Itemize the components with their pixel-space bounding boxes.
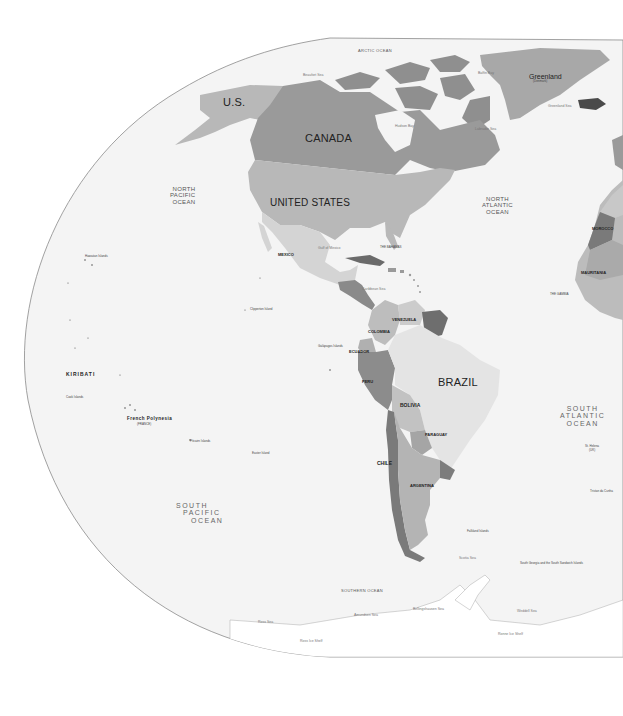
north-atlantic-line2: ATLANTIC [482, 202, 513, 208]
north-atlantic-line3: OCEAN [482, 209, 513, 215]
north-pacific-line3: OCEAN [170, 199, 195, 205]
label-caribbean-sea: Caribbean Sea [362, 288, 385, 292]
north-pacific-line2: PACIFIC [170, 192, 195, 198]
label-north-atlantic: NORTH ATLANTIC OCEAN [482, 196, 513, 215]
label-arctic-ocean: ARCTIC OCEAN [358, 49, 392, 53]
label-baffin-bay: Baffin Bay [478, 72, 494, 76]
label-brazil: BRAZIL [438, 377, 478, 389]
south-pacific-line1: SOUTH [176, 502, 223, 509]
label-scotia-sea: Scotia Sea [459, 557, 476, 561]
label-mexico: MEXICO [278, 253, 294, 257]
label-us-alaska: U.S. [223, 97, 245, 109]
label-st-helena-sub: (UK) [589, 449, 595, 452]
label-ross-ice-shelf: Ross Ice Shelf [300, 640, 323, 644]
label-bellingshausen-sea: Bellingshausen Sea [413, 608, 444, 612]
south-pacific-line2: PACIFIC [176, 509, 223, 516]
label-united-states: UNITED STATES [270, 198, 350, 209]
label-venezuela: VENEZUELA [392, 318, 416, 322]
label-greenland-sub: (Denmark) [533, 80, 547, 83]
label-french-polynesia-sub: (FRANCE) [137, 423, 151, 426]
label-south-atlantic: SOUTH ATLANTIC OCEAN [560, 405, 605, 427]
label-south-georgia: South Georgia and the South Sandwich Isl… [520, 562, 583, 565]
label-weddell-sea: Weddell Sea [517, 610, 537, 614]
label-clipperton: Clipperton Island [250, 308, 273, 311]
south-atlantic-line1: SOUTH [560, 405, 605, 412]
label-ecuador: ECUADOR [349, 350, 369, 354]
label-canada: CANADA [305, 133, 352, 145]
world-map-americas: U.S. CANADA UNITED STATES Greenland (Den… [0, 0, 623, 716]
label-amundsen-sea: Amundsen Sea [354, 614, 378, 618]
label-morocco: MOROCCO [592, 227, 613, 231]
label-chile: CHILE [377, 461, 392, 466]
south-pacific-line3: OCEAN [176, 517, 223, 524]
south-atlantic-line2: ATLANTIC [560, 412, 605, 419]
label-bolivia: BOLIVIA [400, 403, 420, 408]
label-paraguay: PARAGUAY [425, 433, 447, 437]
label-peru: PERU [362, 380, 373, 384]
label-labrador-sea: Labrador Sea [475, 128, 496, 132]
label-the-gambia: THE GAMBIA [550, 293, 569, 296]
label-easter-island: Easter Island [252, 452, 270, 455]
south-atlantic-line3: OCEAN [560, 420, 605, 427]
label-north-pacific: NORTH PACIFIC OCEAN [170, 186, 195, 205]
label-galapagos: Galápagos Islands [318, 345, 343, 348]
label-beaufort-sea: Beaufort Sea [303, 74, 323, 78]
label-ross-sea: Ross Sea [258, 621, 273, 625]
label-falkland-islands: Falkland Islands [467, 530, 489, 533]
label-cook-islands: Cook Islands [66, 396, 83, 399]
label-ronne-ice-shelf: Ronne Ice Shelf [498, 633, 523, 637]
label-kiribati: KIRIBATI [66, 372, 95, 377]
label-hawaiian-islands: Hawaiian Islands [85, 255, 108, 258]
label-southern-ocean: SOUTHERN OCEAN [341, 589, 383, 593]
label-gulf-of-mexico: Gulf of Mexico [318, 247, 340, 251]
label-tristan-da-cunha: Tristan da Cunha [590, 490, 613, 493]
label-french-polynesia: French Polynesia [127, 417, 172, 422]
label-colombia: COLOMBIA [368, 330, 390, 334]
label-hudson-bay: Hudson Bay [395, 125, 414, 129]
label-the-bahamas: THE BAHAMAS [380, 246, 402, 249]
label-greenland-sea: Greenland Sea [548, 105, 572, 109]
label-argentina: ARGENTINA [410, 484, 434, 488]
label-mauritania: MAURITANIA [581, 271, 606, 275]
label-south-pacific: SOUTH PACIFIC OCEAN [176, 502, 223, 524]
label-pitcairn: Pitcairn Islands [190, 440, 210, 443]
